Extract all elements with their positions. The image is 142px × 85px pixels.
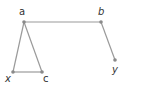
edge-b-y [101,22,115,60]
label-c: c [43,73,49,84]
node-b [99,20,103,24]
node-x [11,70,15,74]
label-x: x [4,73,11,84]
node-y [113,58,117,62]
label-a: a [19,6,25,17]
label-y: y [111,64,119,75]
node-a [22,20,26,24]
edge-a-x [13,22,24,72]
label-b: b [98,6,104,17]
nodes [11,20,117,74]
graph-diagram: a b x c y [0,0,142,85]
edges [13,22,115,72]
edge-a-c [24,22,42,72]
